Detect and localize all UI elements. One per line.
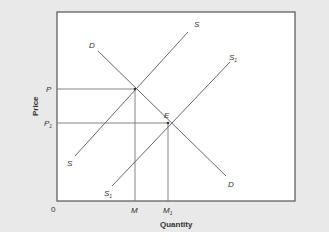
quantity-tick-m: M	[131, 206, 138, 215]
price-tick-p: P	[46, 85, 52, 94]
equilibrium-point-original	[134, 88, 137, 91]
equilibrium-e-label: E	[164, 111, 170, 120]
supply-label-bottom: S	[67, 159, 73, 168]
x-axis-title: Quantity	[160, 220, 193, 229]
demand-label-bottom: D	[228, 180, 234, 189]
demand-label-top: D	[89, 41, 95, 50]
supply-label-top: S	[194, 20, 200, 29]
supply-demand-chart: D D S S S1 S1 E P P1 0 M M1 Quantity Pri…	[0, 0, 329, 246]
origin-label: 0	[51, 205, 56, 214]
quantity-tick-m1: M1	[163, 206, 173, 216]
price-tick-p1: P1	[44, 119, 52, 129]
equilibrium-point-e	[167, 122, 170, 125]
y-axis-title: Price	[31, 96, 40, 116]
